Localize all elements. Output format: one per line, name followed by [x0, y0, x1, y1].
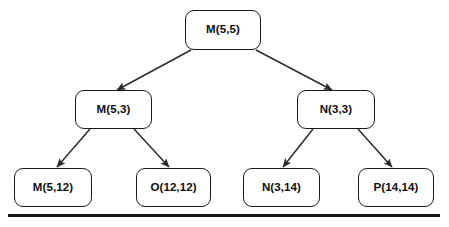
edge-r1-to-r2a [283, 129, 313, 167]
edge-root-to-r1 [256, 50, 332, 90]
baseline-rule [8, 214, 440, 217]
node-leaf-1[interactable]: M(5,12) [14, 168, 92, 207]
node-leaf-4[interactable]: P(14,14) [358, 168, 434, 207]
node-left-level1-label: M(5,3) [97, 104, 131, 116]
node-leaf-3[interactable]: N(3,14) [243, 168, 320, 207]
node-leaf-4-label: P(14,14) [374, 182, 419, 194]
node-right-level1[interactable]: N(3,3) [297, 90, 375, 129]
node-root[interactable]: M(5,5) [185, 10, 261, 50]
edge-l1-to-l2b [134, 129, 169, 167]
node-right-level1-label: N(3,3) [320, 104, 353, 116]
node-root-label: M(5,5) [206, 24, 240, 36]
edge-l1-to-l2a [57, 129, 90, 167]
edge-r1-to-r2b [358, 129, 392, 167]
node-leaf-2-label: O(12,12) [150, 182, 196, 194]
node-leaf-3-label: N(3,14) [262, 182, 301, 194]
tree-diagram: M(5,5) M(5,3) N(3,3) M(5,12) O(12,12) N(… [0, 0, 449, 227]
edge-root-to-l1 [117, 50, 191, 90]
node-left-level1[interactable]: M(5,3) [75, 90, 152, 129]
node-leaf-2[interactable]: O(12,12) [136, 168, 211, 207]
node-leaf-1-label: M(5,12) [33, 182, 73, 194]
